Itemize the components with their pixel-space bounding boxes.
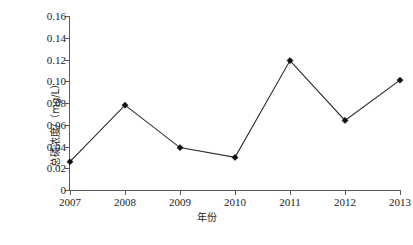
- x-tick-label-2010: 2010: [224, 197, 246, 208]
- x-axis-title: 年份: [0, 213, 413, 223]
- x-tick-mark-2010: [235, 190, 236, 195]
- x-tick-mark-2012: [345, 190, 346, 195]
- x-tick-label-2007: 2007: [59, 197, 81, 208]
- x-tick-label-2013: 2013: [389, 197, 411, 208]
- x-tick-mark-2011: [290, 190, 291, 195]
- y-tick-label: 0: [61, 185, 67, 196]
- data-point-2010: [232, 154, 238, 160]
- x-tick-label-2008: 2008: [114, 197, 136, 208]
- chart-figure: 总磷浓度/（mg/L） 00.020.040.060.080.100.120.1…: [0, 0, 413, 245]
- y-tick-label: 0.12: [47, 54, 66, 65]
- x-tick-mark-2013: [400, 190, 401, 195]
- x-tick-mark-2007: [70, 190, 71, 195]
- y-tick-label: 0.08: [47, 98, 66, 109]
- y-tick-label: 0.10: [47, 76, 66, 87]
- x-tick-label-2012: 2012: [334, 197, 356, 208]
- y-tick-label: 0.04: [47, 141, 66, 152]
- x-tick-label-2009: 2009: [169, 197, 191, 208]
- series-total-phosphorus: [70, 16, 400, 190]
- plot-area: 00.020.040.060.080.100.120.140.16 200720…: [70, 16, 400, 190]
- y-tick-label: 0.02: [47, 163, 66, 174]
- x-tick-label-2011: 2011: [279, 197, 301, 208]
- y-tick-label: 0.14: [47, 32, 66, 43]
- x-tick-mark-2009: [180, 190, 181, 195]
- x-tick-mark-2008: [125, 190, 126, 195]
- series-markers: [67, 57, 403, 164]
- y-tick-label: 0.06: [47, 119, 66, 130]
- y-tick-label: 0.16: [47, 11, 66, 22]
- series-line: [70, 61, 400, 162]
